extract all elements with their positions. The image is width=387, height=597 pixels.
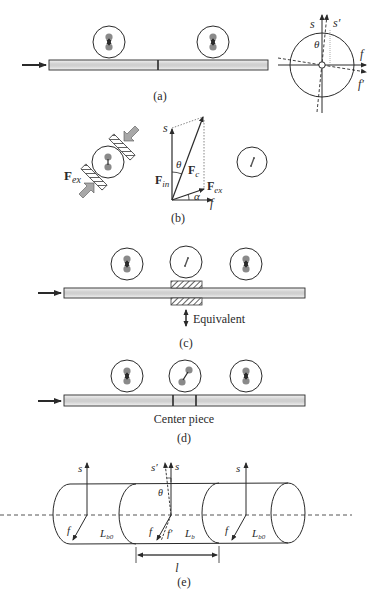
- fiber: [64, 395, 305, 406]
- svg-text:f′: f′: [358, 77, 364, 91]
- svg-text:Fex: Fex: [64, 168, 81, 185]
- rotated-paddle: [237, 147, 267, 177]
- svg-text:s′: s′: [151, 461, 158, 473]
- caption-e: (e): [177, 575, 190, 589]
- axis-rotation-diagram: s s′ θ f f′: [278, 15, 366, 113]
- svg-text:f: f: [149, 525, 154, 537]
- caption-d: (d): [177, 431, 191, 445]
- figure: (a) s s′ θ f f′: [0, 0, 387, 597]
- paddle-2-rotated: [169, 360, 201, 392]
- svg-text:f′: f′: [167, 527, 173, 539]
- panel-e: s f Lb0 s′ s θ f f′ Lb s f Lb0 l (e): [0, 460, 352, 589]
- svg-text:Lb: Lb: [184, 527, 195, 541]
- paddle-2: [197, 26, 229, 58]
- svg-text:s: s: [175, 460, 179, 472]
- panel-b: Fex s θ Fc Fin Fex α f (b): [64, 117, 267, 225]
- clamp-top: [171, 281, 202, 288]
- paddle-3: [230, 248, 262, 280]
- clamp-bottom: [171, 298, 202, 305]
- squeezed-paddle: Fex: [64, 126, 139, 198]
- svg-text:s: s: [236, 462, 240, 474]
- svg-text:s′: s′: [333, 16, 341, 30]
- svg-text:f: f: [67, 524, 72, 536]
- equivalent-label: Equivalent: [193, 312, 246, 326]
- svg-text:α: α: [194, 190, 200, 202]
- caption-c: (c): [179, 336, 192, 350]
- force-vector-diagram: s θ Fc Fin Fex α f: [155, 117, 222, 210]
- svg-text:θ: θ: [176, 158, 182, 170]
- paddle-1: [111, 248, 143, 280]
- svg-text:s: s: [78, 462, 82, 474]
- paddle-3: [230, 360, 262, 392]
- force-arrow-icon: [79, 183, 94, 198]
- svg-text:l: l: [175, 561, 179, 575]
- caption-b: (b): [171, 211, 185, 225]
- svg-text:Fex: Fex: [207, 179, 222, 195]
- force-arrow-icon: [124, 126, 139, 141]
- svg-text:Fin: Fin: [155, 173, 170, 189]
- svg-text:s: s: [163, 121, 168, 135]
- svg-text:f: f: [225, 524, 230, 536]
- paddle-1: [111, 360, 143, 392]
- paddle-1: [93, 26, 125, 58]
- svg-text:f: f: [210, 196, 215, 210]
- panel-c: Equivalent (c): [38, 246, 305, 350]
- fiber: [64, 288, 305, 298]
- paddle-2-rotated: [170, 246, 202, 278]
- caption-a: (a): [153, 89, 166, 103]
- svg-text:s: s: [310, 17, 315, 31]
- svg-text:Lb0: Lb0: [251, 527, 266, 541]
- svg-text:f: f: [360, 47, 365, 61]
- center-piece-label: Center piece: [154, 412, 214, 426]
- svg-text:Lb0: Lb0: [99, 527, 114, 541]
- panel-a: (a) s s′ θ f f′: [22, 15, 366, 113]
- svg-text:Fc: Fc: [188, 163, 199, 179]
- panel-d: Center piece (d): [38, 360, 305, 445]
- svg-text:θ: θ: [314, 38, 320, 50]
- svg-text:θ: θ: [158, 487, 163, 498]
